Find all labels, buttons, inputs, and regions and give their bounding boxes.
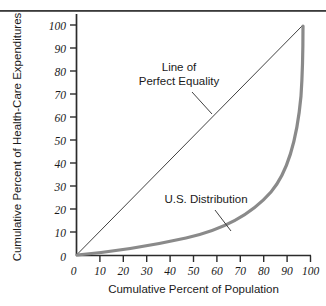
annotation-line-of-perfect-equality: Line of Perfect Equality (139, 61, 220, 114)
chart-canvas: 100 90 80 70 60 50 40 30 20 10 0 (0, 0, 326, 306)
x-tick-label: 50 (188, 265, 200, 277)
x-axis-ticks (100, 256, 311, 263)
annotation-text-line2: Perfect Equality (139, 75, 220, 87)
annotation-text-line1: Line of (162, 61, 197, 73)
y-tick-label: 60 (55, 112, 67, 124)
x-tick-label: 80 (258, 265, 270, 277)
x-axis-title: Cumulative Percent of Population (108, 283, 279, 295)
y-tick-label: 80 (55, 66, 67, 78)
y-tick-label: 70 (55, 89, 67, 101)
x-tick-label: 70 (235, 265, 247, 277)
x-axis-tick-labels: 0 10 20 30 40 50 60 70 80 90 100 (71, 265, 320, 277)
y-tick-label: 0 (60, 251, 66, 263)
x-tick-label: 90 (281, 265, 293, 277)
x-tick-label: 0 (71, 265, 77, 277)
x-tick-label: 60 (211, 265, 223, 277)
y-tick-label: 10 (55, 227, 67, 239)
x-tick-label: 20 (118, 265, 130, 277)
series-line-of-perfect-equality (77, 25, 304, 255)
annotation-leader-line (192, 92, 212, 114)
x-tick-label: 30 (140, 265, 153, 277)
y-axis-title: Cumulative Percent of Health-Care Expend… (11, 12, 23, 261)
y-tick-label: 30 (54, 181, 67, 193)
y-tick-label: 50 (55, 135, 67, 147)
y-tick-label: 40 (55, 158, 67, 170)
y-tick-label: 90 (55, 43, 67, 55)
y-tick-label: 20 (55, 204, 67, 216)
annotation-text-line1: U.S. Distribution (164, 193, 247, 205)
x-tick-label: 10 (94, 265, 106, 277)
y-axis-ticks (70, 25, 77, 232)
lorenz-curve-figure: 100 90 80 70 60 50 40 30 20 10 0 (0, 0, 326, 306)
y-tick-label: 100 (49, 20, 67, 32)
y-axis-tick-labels: 100 90 80 70 60 50 40 30 20 10 0 (49, 20, 67, 264)
x-tick-label: 40 (164, 265, 176, 277)
x-tick-label: 100 (302, 265, 320, 277)
annotation-us-distribution: U.S. Distribution (164, 193, 247, 231)
